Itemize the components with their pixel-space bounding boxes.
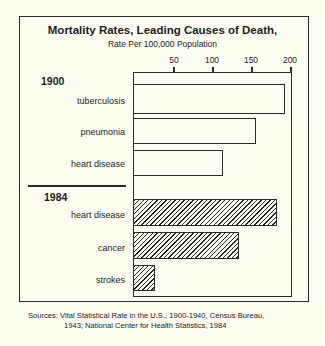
bar-1984-heart-disease — [133, 199, 277, 226]
sources-note: Sources: Vital Statistical Rate in the U… — [28, 311, 318, 331]
bar-1984-cancer — [133, 232, 239, 259]
tick-label-50: 50 — [169, 55, 178, 65]
category-label: pneumonia — [80, 127, 125, 137]
category-label: tuberculosis — [77, 96, 125, 106]
sources-line-2: 1943; National Center for Health Statist… — [28, 321, 318, 331]
chart-subtitle: Rate Per 100,000 Population — [0, 39, 325, 49]
category-label: strokes — [96, 275, 125, 285]
group-label-1984: 1984 — [44, 191, 67, 203]
tick-label-150: 150 — [244, 55, 258, 65]
bar-1900-tuberculosis — [133, 84, 285, 114]
category-label: heart disease — [71, 159, 125, 169]
bar-1984-strokes — [133, 265, 155, 291]
tick-label-100: 100 — [205, 55, 219, 65]
tick-label-200: 200 — [283, 55, 297, 65]
chart-title: Mortality Rates, Leading Causes of Death… — [0, 24, 325, 36]
bar-1900-pneumonia — [133, 118, 256, 144]
category-label: cancer — [98, 243, 125, 253]
group-label-1900: 1900 — [41, 75, 64, 87]
bar-1900-heart-disease — [133, 150, 223, 176]
group-divider — [28, 185, 126, 187]
sources-line-1: Sources: Vital Statistical Rate in the U… — [28, 311, 318, 321]
category-label: heart disease — [71, 210, 125, 220]
